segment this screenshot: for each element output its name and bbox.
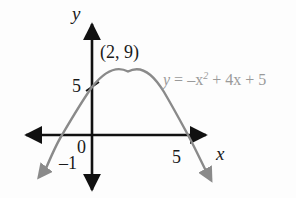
x-intercept-negative-label: –1: [59, 154, 77, 172]
parabola-right-arrow: [205, 169, 211, 180]
origin-label: 0: [77, 138, 86, 156]
equation-lhs: y: [163, 71, 170, 88]
y-axis-label: y: [72, 4, 80, 23]
equation-term-constant: + 5: [245, 71, 266, 88]
x-axis-label: x: [216, 144, 224, 163]
equation-exponent: 2: [203, 70, 208, 81]
equation-label: y = –x2 + 4x + 5: [163, 72, 266, 88]
x-intercept-positive-label: 5: [172, 148, 181, 166]
graph-canvas: [0, 0, 296, 198]
parabola-figure: y x 0 5 –1 5 (2, 9) y = –x2 + 4x + 5: [0, 0, 296, 198]
vertex-label: (2, 9): [100, 43, 139, 61]
y-intercept-label: 5: [72, 77, 81, 95]
equation-equals: =: [174, 71, 183, 88]
equation-term-linear: + 4x: [212, 71, 241, 88]
equation-term-quadratic: –x: [187, 71, 203, 88]
